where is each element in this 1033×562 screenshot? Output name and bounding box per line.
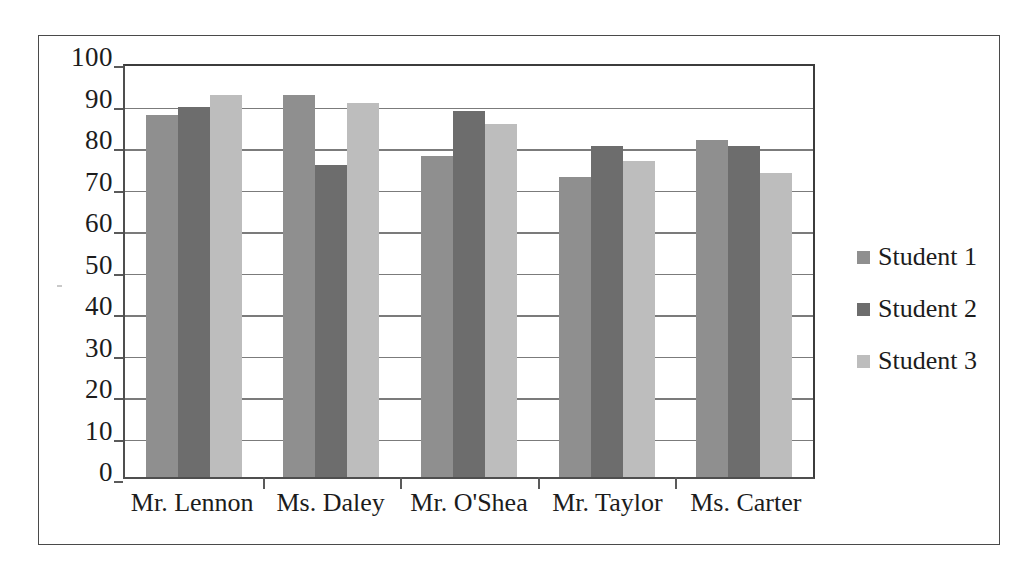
legend-item[interactable]: Student 1 bbox=[857, 231, 997, 283]
legend: Student 1Student 2Student 3 bbox=[857, 231, 997, 387]
bar-group bbox=[400, 66, 538, 477]
legend-swatch-icon bbox=[857, 355, 870, 368]
y-tick-label: 40 bbox=[85, 293, 113, 320]
x-tick-label: Mr. Taylor bbox=[538, 488, 676, 518]
legend-swatch-icon bbox=[857, 251, 870, 264]
bar[interactable] bbox=[485, 124, 517, 477]
y-tick-label: 70 bbox=[85, 168, 113, 195]
bar-groups bbox=[125, 66, 813, 477]
y-axis-tick bbox=[114, 440, 123, 442]
y-axis-tick bbox=[114, 232, 123, 234]
legend-swatch-icon bbox=[857, 303, 870, 316]
bar[interactable] bbox=[559, 177, 591, 477]
y-tick-label: 90 bbox=[85, 85, 113, 112]
y-axis-tick bbox=[114, 398, 123, 400]
legend-item[interactable]: Student 2 bbox=[857, 283, 997, 335]
y-tick-label: 10 bbox=[85, 417, 113, 444]
bar-group bbox=[675, 66, 813, 477]
x-tick-label: Ms. Carter bbox=[677, 488, 815, 518]
bar[interactable] bbox=[283, 95, 315, 477]
bar[interactable] bbox=[178, 107, 210, 477]
x-tick-label: Ms. Daley bbox=[261, 488, 399, 518]
y-axis-tick bbox=[114, 149, 123, 151]
x-tick-label: Mr. Lennon bbox=[123, 488, 261, 518]
bar-group bbox=[263, 66, 401, 477]
y-tick-label: 50 bbox=[85, 251, 113, 278]
x-tick-label: Mr. O'Shea bbox=[400, 488, 538, 518]
y-axis-tick bbox=[114, 481, 123, 483]
y-axis-tick bbox=[114, 66, 123, 68]
y-tick-label: 60 bbox=[85, 210, 113, 237]
y-tick-label: 20 bbox=[85, 376, 113, 403]
plot-area bbox=[123, 64, 815, 479]
y-tick-label: 30 bbox=[85, 334, 113, 361]
y-axis-tick bbox=[114, 357, 123, 359]
chart-canvas: 1009080706050403020100 Mr. LennonMs. Dal… bbox=[39, 36, 999, 544]
bar[interactable] bbox=[146, 115, 178, 477]
bar[interactable] bbox=[728, 146, 760, 477]
bar[interactable] bbox=[421, 156, 453, 477]
bar[interactable] bbox=[591, 146, 623, 477]
bar[interactable] bbox=[347, 103, 379, 477]
chart-frame: 1009080706050403020100 Mr. LennonMs. Dal… bbox=[38, 35, 1000, 545]
bar[interactable] bbox=[623, 161, 655, 477]
y-axis-tick bbox=[114, 274, 123, 276]
x-axis: Mr. LennonMs. DaleyMr. O'SheaMr. TaylorM… bbox=[123, 488, 815, 518]
bar[interactable] bbox=[760, 173, 792, 477]
y-tick-label: 0 bbox=[99, 459, 113, 486]
y-tick-label: 80 bbox=[85, 127, 113, 154]
bar-group bbox=[125, 66, 263, 477]
y-axis-tick bbox=[114, 191, 123, 193]
bar-group bbox=[538, 66, 676, 477]
legend-label: Student 3 bbox=[878, 348, 977, 374]
bar[interactable] bbox=[453, 111, 485, 477]
bar[interactable] bbox=[315, 165, 347, 477]
y-tick-label: 100 bbox=[71, 44, 113, 71]
y-axis-tick bbox=[114, 108, 123, 110]
y-axis: 1009080706050403020100 bbox=[49, 57, 113, 472]
legend-label: Student 1 bbox=[878, 244, 977, 270]
legend-item[interactable]: Student 3 bbox=[857, 335, 997, 387]
y-axis-tick bbox=[114, 315, 123, 317]
bar[interactable] bbox=[696, 140, 728, 477]
bar[interactable] bbox=[210, 95, 242, 477]
legend-label: Student 2 bbox=[878, 296, 977, 322]
